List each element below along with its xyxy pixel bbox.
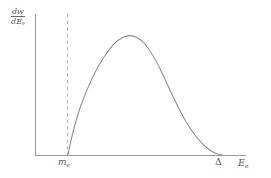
x-tick-label-electron-mass: me bbox=[58, 158, 70, 167]
spectrum-curve bbox=[68, 36, 223, 155]
x-tick-label-delta: Δ bbox=[215, 157, 222, 167]
y-axis-denominator-main: dE bbox=[11, 17, 22, 26]
x-axis-label-main: E bbox=[238, 157, 245, 168]
y-axis-denominator-subscript: e bbox=[22, 20, 25, 26]
spectrum-plot bbox=[0, 0, 271, 178]
figure-container: dw dEe me Δ Ee bbox=[0, 0, 271, 178]
x-tick-me-main: m bbox=[58, 157, 67, 167]
x-tick-me-subscript: e bbox=[67, 162, 70, 168]
x-axis-label-subscript: e bbox=[245, 163, 248, 169]
x-axis-label: Ee bbox=[238, 158, 248, 168]
y-axis-fraction: dw dEe bbox=[11, 8, 25, 26]
y-axis-label: dw dEe bbox=[11, 8, 25, 26]
y-axis-denominator: dEe bbox=[11, 17, 25, 26]
